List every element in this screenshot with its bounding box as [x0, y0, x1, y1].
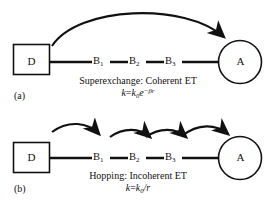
panel-tag-a: (a) — [14, 91, 25, 101]
rate-law-a: k=k0e−βr — [0, 87, 276, 99]
rate-law-a-exponent: −βr — [144, 87, 155, 95]
bridge-letter-a-3: B — [165, 55, 172, 66]
bridge-label-a-1: B1 — [93, 56, 104, 68]
bridge-letter-a-1: B — [93, 55, 100, 66]
panel-a-graphics — [14, 13, 262, 83]
bridge-letter-b-2: B — [129, 151, 136, 162]
bridge-sub-a-3: 3 — [172, 60, 176, 68]
bridge-letter-b-1: B — [93, 151, 100, 162]
electron-transfer-figure: D A B1 B2 B3 Superexchange: Coherent ET … — [0, 0, 276, 202]
rate-law-b-denominator: r — [146, 182, 150, 193]
bridge-sub-a-2: 2 — [136, 60, 140, 68]
rate-law-b: k=k0/r — [0, 182, 276, 194]
bridge-label-b-1: B1 — [93, 152, 104, 164]
mechanism-caption-a: Superexchange: Coherent ET — [0, 75, 276, 86]
superexchange-arc-arrow — [52, 13, 224, 46]
hopping-arc-arrow-1 — [52, 124, 99, 134]
mechanism-caption-b: Hopping: Incoherent ET — [0, 170, 276, 181]
bridge-sub-b-2: 2 — [136, 156, 140, 164]
bridge-letter-a-2: B — [129, 55, 136, 66]
hopping-arc-arrow-2 — [110, 130, 150, 137]
acceptor-label-b: A — [222, 152, 259, 163]
hopping-arc-arrow-3 — [146, 130, 186, 137]
bridge-sub-a-1: 1 — [100, 60, 104, 68]
donor-label-a: D — [13, 56, 50, 67]
hopping-arc-arrow-4 — [182, 126, 228, 136]
bridge-sub-b-3: 3 — [172, 156, 176, 164]
acceptor-label-a: A — [222, 56, 259, 67]
donor-label-b: D — [13, 152, 50, 163]
bridge-sub-b-1: 1 — [100, 156, 104, 164]
bridge-letter-b-3: B — [165, 151, 172, 162]
bridge-label-b-2: B2 — [129, 152, 140, 164]
panel-tag-b: (b) — [14, 184, 26, 194]
bridge-label-a-3: B3 — [165, 56, 176, 68]
bridge-label-b-3: B3 — [165, 152, 176, 164]
bridge-label-a-2: B2 — [129, 56, 140, 68]
